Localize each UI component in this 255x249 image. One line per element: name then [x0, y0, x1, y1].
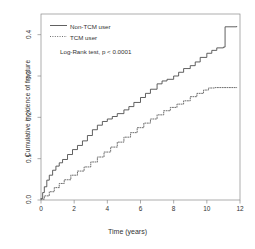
x-tick-label: 2	[72, 205, 76, 212]
logrank-annotation: Log-Rank test, p < 0.0001	[60, 48, 131, 55]
x-tick-label: 4	[106, 205, 110, 212]
x-tick-label: 6	[139, 205, 143, 212]
x-axis-label: Time (years)	[0, 228, 255, 235]
y-tick-label: 0.2	[25, 109, 32, 125]
y-tick-label: 0.3	[25, 68, 32, 84]
figure: Cumulative incidence of fracture Time (y…	[0, 0, 255, 249]
x-tick-label: 0	[39, 205, 43, 212]
x-tick-label: 8	[172, 205, 176, 212]
legend-label-tcm: TCM user	[70, 34, 97, 41]
series-line-tcm	[41, 88, 237, 200]
x-tick-label: 12	[236, 205, 243, 212]
plot-frame	[41, 14, 240, 200]
x-tick-label: 10	[203, 205, 210, 212]
y-tick-label: 0.0	[25, 192, 32, 208]
y-tick-label: 0.1	[25, 150, 32, 166]
legend-label-non-tcm: Non-TCM user	[70, 23, 111, 30]
y-tick-label: 0.4	[25, 26, 32, 42]
